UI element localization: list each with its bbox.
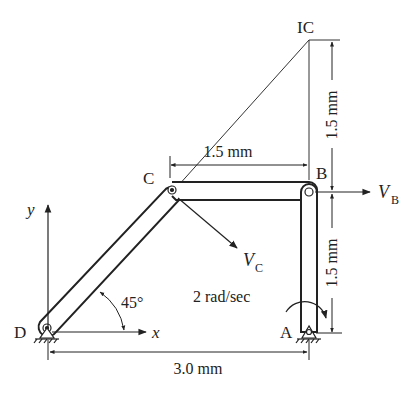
point-label-c: C [143,169,154,188]
linkage-diagram: y x 45° V C V B 2 rad/sec IC C B D A 1.5… [0,0,420,395]
dimension-ic-b-label: 1.5 mm [323,90,340,139]
y-axis-label: y [25,200,35,219]
angle-label: 45° [121,294,143,311]
angular-velocity-label: 2 rad/sec [193,288,250,305]
dimension-d-a-label: 3.0 mm [174,360,223,377]
pin-c [168,186,176,194]
link-dc [39,187,181,337]
point-label-d: D [14,323,26,342]
point-label-ic: IC [297,18,314,37]
point-label-a: A [280,323,293,342]
link-ab [301,184,317,332]
vb-label: V [378,182,391,202]
link-cb [172,182,317,200]
x-axis-label: x [151,323,160,342]
dimension-b-a-label: 1.5 mm [323,238,340,287]
point-label-b: B [316,164,327,183]
vc-subscript: C [255,261,263,275]
pin-b [305,188,313,196]
dimension-cb-label: 1.5 mm [204,143,253,160]
vb-subscript: B [391,193,399,207]
velocity-vc-arrow [178,198,237,248]
dimension-d-a [48,340,309,360]
